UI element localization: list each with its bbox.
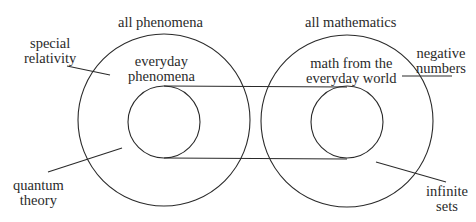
- special-relativity-label: special relativity: [24, 36, 76, 66]
- negative-numbers-label-line1: negative: [416, 46, 466, 61]
- top-connector-line: [164, 86, 347, 87]
- diagram-canvas: all phenomena everyday phenomena special…: [0, 0, 476, 222]
- quantum-theory-label-line2: theory: [13, 193, 64, 208]
- everyday-phenomena-label: everyday phenomena: [128, 54, 195, 84]
- everyday-phenomena-label-line1: everyday: [128, 54, 195, 69]
- infinite-sets-label-line1: infinite: [426, 184, 468, 199]
- everyday-math-label-line2: everyday world: [306, 71, 397, 86]
- everyday-math-circle: [311, 86, 383, 158]
- quantum-theory-label-line1: quantum: [13, 178, 64, 193]
- everyday-math-label-line1: math from the: [306, 56, 397, 71]
- all-mathematics-label: all mathematics: [305, 15, 396, 30]
- everyday-phenomena-circle: [128, 86, 200, 158]
- infinite-sets-label: infinite sets: [426, 184, 468, 214]
- bottom-connector-line: [164, 158, 347, 159]
- infinite-sets-label-line2: sets: [426, 199, 468, 214]
- special-relativity-label-line2: relativity: [24, 51, 76, 66]
- special-relativity-pointer: [67, 66, 110, 75]
- everyday-phenomena-label-line2: phenomena: [128, 69, 195, 84]
- all-phenomena-label: all phenomena: [118, 15, 203, 30]
- negative-numbers-label-line2: numbers: [416, 61, 466, 76]
- special-relativity-label-line1: special: [24, 36, 76, 51]
- everyday-math-label: math from the everyday world: [306, 56, 397, 86]
- diagram-shapes: [0, 0, 476, 222]
- quantum-theory-pointer: [48, 148, 122, 172]
- quantum-theory-label: quantum theory: [13, 178, 64, 208]
- negative-numbers-label: negative numbers: [416, 46, 466, 76]
